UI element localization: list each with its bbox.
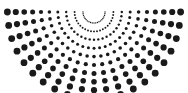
- dot-marker: [107, 25, 109, 27]
- dot-marker: [146, 37, 151, 42]
- dot-marker: [42, 46, 47, 51]
- dot-marker: [28, 55, 34, 61]
- dot-marker: [123, 53, 127, 57]
- dot-marker: [123, 71, 129, 77]
- radial-dot-scatter-plot: [0, 0, 188, 93]
- dot-marker: [93, 30, 95, 32]
- dot-marker: [177, 9, 184, 16]
- dot-marker: [58, 22, 61, 25]
- dot-marker: [23, 20, 29, 26]
- dot-marker: [126, 79, 132, 85]
- dot-marker: [39, 10, 43, 14]
- dot-marker: [87, 20, 88, 21]
- dot-marker: [64, 64, 69, 69]
- dot-marker: [128, 16, 131, 19]
- dot-marker: [68, 23, 70, 25]
- dot-marker: [115, 27, 117, 29]
- dot-marker: [92, 22, 93, 23]
- dot-marker: [130, 86, 137, 93]
- dot-marker: [113, 50, 117, 54]
- dot-marker: [161, 44, 167, 50]
- dot-marker: [97, 38, 99, 40]
- dot-marker: [29, 70, 36, 77]
- dot-marker: [33, 28, 38, 33]
- dot-marker: [114, 40, 117, 43]
- dot-marker: [152, 19, 157, 24]
- dot-marker: [128, 59, 133, 64]
- dot-marker: [86, 19, 87, 20]
- dot-marker: [112, 11, 114, 13]
- dot-marker: [5, 22, 12, 29]
- dot-marker: [82, 11, 83, 12]
- dot-marker: [103, 86, 109, 92]
- dot-marker: [76, 33, 78, 35]
- dot-marker: [48, 17, 52, 21]
- dot-marker: [93, 39, 95, 41]
- dot-marker: [68, 57, 72, 61]
- dot-marker: [42, 26, 46, 30]
- dot-marker: [139, 34, 143, 38]
- dot-marker: [77, 22, 79, 24]
- dot-marker: [73, 68, 78, 73]
- dot-marker: [112, 14, 114, 16]
- dot-marker: [161, 9, 167, 15]
- dot-marker: [51, 86, 58, 93]
- dot-marker: [137, 72, 143, 78]
- dot-marker: [127, 22, 130, 25]
- dot-marker: [108, 60, 112, 64]
- dot-marker: [63, 32, 66, 35]
- dot-marker: [61, 42, 65, 46]
- dot-marker: [135, 24, 139, 28]
- dot-marker: [101, 19, 102, 20]
- dot-marker: [160, 20, 166, 26]
- dot-marker: [152, 70, 159, 77]
- dot-marker: [87, 46, 90, 49]
- dot-marker: [66, 19, 68, 21]
- dot-marker: [165, 33, 171, 39]
- dot-marker: [141, 79, 148, 86]
- dot-marker: [87, 30, 89, 32]
- dot-marker: [92, 63, 96, 67]
- dot-marker: [119, 64, 124, 69]
- dot-marker: [105, 36, 107, 38]
- dot-marker: [101, 37, 103, 39]
- dot-marker: [122, 32, 125, 35]
- dot-marker: [65, 15, 67, 17]
- dot-marker: [29, 41, 35, 47]
- dot-marker: [110, 20, 112, 22]
- dot-marker: [141, 59, 147, 65]
- dot-marker: [14, 21, 20, 27]
- dot-marker: [31, 19, 36, 24]
- dot-marker: [50, 24, 54, 28]
- dot-marker: [60, 71, 66, 77]
- dot-marker: [45, 34, 49, 38]
- dot-marker: [154, 55, 160, 61]
- dot-marker: [13, 9, 19, 15]
- dot-marker: [56, 36, 60, 40]
- dot-marker: [70, 76, 76, 82]
- dot-marker: [61, 53, 65, 57]
- dot-marker: [102, 18, 103, 19]
- dot-marker: [70, 27, 72, 29]
- dot-marker: [45, 72, 51, 78]
- dot-marker: [84, 16, 85, 17]
- dot-marker: [14, 48, 21, 55]
- dot-marker: [104, 27, 106, 29]
- dot-marker: [36, 64, 42, 70]
- dot-marker: [137, 10, 141, 14]
- dot-marker: [50, 66, 56, 72]
- dot-marker: [79, 25, 81, 27]
- dot-marker: [168, 21, 174, 27]
- dot-marker: [84, 62, 88, 66]
- dot-marker: [109, 43, 112, 46]
- dot-marker: [109, 22, 111, 24]
- dot-marker: [48, 53, 53, 58]
- dot-marker: [80, 78, 86, 84]
- radial-dot-fan-figure: [0, 0, 188, 93]
- dot-marker: [153, 41, 159, 47]
- dot-marker: [129, 11, 132, 14]
- dot-marker: [124, 42, 128, 46]
- dot-marker: [135, 41, 139, 45]
- dot-marker: [84, 18, 85, 19]
- dot-marker: [65, 11, 67, 13]
